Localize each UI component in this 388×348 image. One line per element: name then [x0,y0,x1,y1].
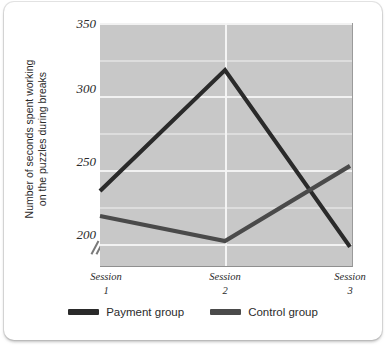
chart-legend: Payment group Control group [4,306,382,318]
legend-item-control-group: Control group [210,306,318,318]
x-axis-tick-labels: Session 1 Session 2 Session 3 [100,270,352,304]
y-tick-label-250: 250 [62,154,96,170]
x-tick-label-session-3: Session 3 [310,270,388,298]
y-tick-label-350: 350 [62,16,96,32]
y-axis-title-line1: Number of seconds spent working [23,60,36,219]
y-axis-title: Number of seconds spent working on the p… [19,32,53,247]
x-tick-label-session-1: Session 1 [66,270,146,298]
legend-swatch-payment-group [68,309,99,315]
y-axis-title-line2: on the puzzles during breaks [36,72,49,206]
legend-label-control-group: Control group [248,306,318,318]
plot-area [100,23,353,267]
figure-card: Number of seconds spent working on the p… [4,2,382,340]
legend-swatch-control-group [210,309,241,315]
legend-label-payment-group: Payment group [106,306,184,318]
line-control-group [100,166,350,241]
line-payment-group [100,70,350,247]
y-tick-label-300: 300 [62,81,96,97]
x-tick-label-session-2: Session 2 [185,270,265,298]
legend-item-payment-group: Payment group [68,306,184,318]
series-plot [100,23,352,266]
